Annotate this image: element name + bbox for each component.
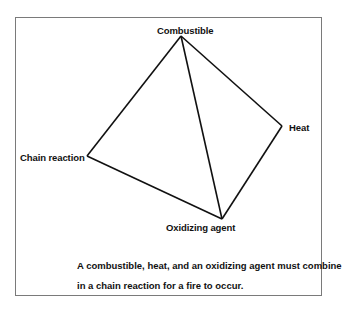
label-oxidizing-agent: Oxidizing agent [166,222,235,233]
caption-line-1: A combustible, heat, and an oxidizing ag… [77,260,342,271]
edge-combustible-heat [181,36,282,126]
label-heat: Heat [289,122,309,133]
label-combustible: Combustible [157,25,213,36]
label-chain-reaction: Chain reaction [20,152,85,163]
edge-chain-oxidizing [87,156,222,219]
edge-combustible-chain [87,36,181,156]
caption-line-2: in a chain reaction for a fire to occur. [77,280,243,291]
edge-heat-oxidizing [222,126,282,219]
edge-combustible-oxidizing [181,36,222,219]
